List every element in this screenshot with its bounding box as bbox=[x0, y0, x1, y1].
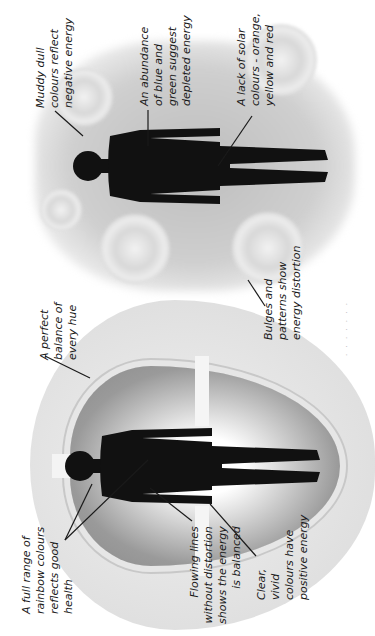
faint-caption-dots: · · · · · · · bbox=[343, 301, 351, 356]
